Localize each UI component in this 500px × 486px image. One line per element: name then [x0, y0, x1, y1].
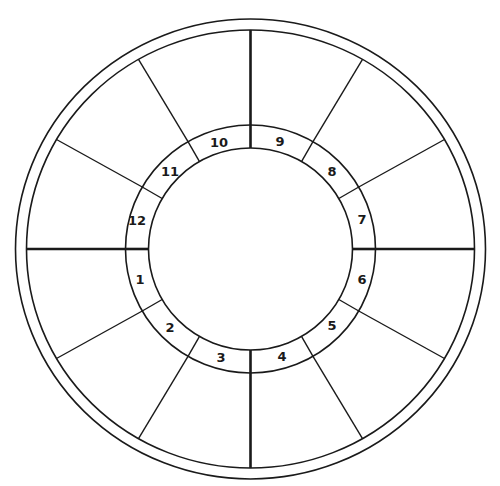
house-ring-divider — [142, 300, 162, 312]
house-number-3: 3 — [216, 350, 225, 365]
house-cusp-line — [57, 311, 143, 359]
wheel-spokes — [27, 30, 475, 468]
house-number-2: 2 — [165, 320, 174, 335]
house-ring-divider — [339, 187, 359, 199]
house-chart-wheel: 123456789101112 — [0, 0, 500, 486]
house-number-1: 1 — [135, 272, 144, 287]
house-number-12: 12 — [128, 213, 146, 228]
house-cusp-line — [57, 140, 143, 188]
house-number-10: 10 — [210, 135, 228, 150]
house-cusp-line — [139, 356, 189, 438]
house-number-5: 5 — [327, 318, 336, 333]
house-labels: 123456789101112 — [128, 134, 367, 365]
house-ring-divider — [142, 187, 162, 199]
house-ring-divider — [339, 300, 359, 312]
house-number-7: 7 — [357, 212, 366, 227]
house-ring-inner-circle — [149, 148, 353, 350]
house-number-6: 6 — [357, 272, 366, 287]
house-number-8: 8 — [327, 164, 336, 179]
house-ring-outer-circle — [126, 125, 376, 373]
house-ring-divider — [302, 336, 314, 356]
house-cusp-line — [313, 356, 363, 438]
house-number-4: 4 — [277, 349, 286, 364]
house-ring-divider — [302, 142, 314, 162]
house-cusp-line — [313, 59, 363, 141]
house-ring-divider — [188, 336, 200, 356]
house-ring-divider — [188, 142, 200, 162]
house-number-11: 11 — [161, 164, 179, 179]
house-cusp-line — [359, 140, 445, 188]
house-cusp-line — [359, 311, 445, 359]
house-number-9: 9 — [275, 134, 284, 149]
house-cusp-line — [139, 59, 189, 141]
